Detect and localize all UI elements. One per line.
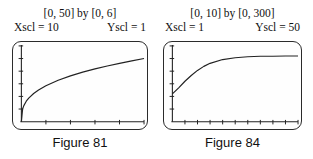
function-curve (172, 56, 298, 94)
page-container: [0, 50] by [0, 6] Xscl = 10 Yscl = 1 Fig… (0, 0, 313, 159)
figure-caption: Figure 81 (12, 135, 148, 150)
yscl-label: Yscl = 1 (107, 21, 146, 34)
window-range-label: [0, 10] by [0, 300] (163, 7, 302, 20)
figure-panel-81: [0, 50] by [0, 6] Xscl = 10 Yscl = 1 Fig… (12, 0, 148, 150)
graph-plot (13, 42, 147, 129)
yscl-label: Yscl = 50 (255, 21, 300, 34)
scale-labels-row: Xscl = 10 Yscl = 1 (12, 21, 148, 34)
xscl-label: Xscl = 10 (14, 21, 59, 34)
window-range-label: [0, 50] by [0, 6] (12, 7, 148, 20)
graph-plot (164, 42, 301, 129)
calculator-screen (163, 41, 302, 130)
figure-panel-84: [0, 10] by [0, 300] Xscl = 1 Yscl = 50 F… (163, 0, 302, 150)
scale-labels-row: Xscl = 1 Yscl = 50 (163, 21, 302, 34)
xscl-label: Xscl = 1 (165, 21, 204, 34)
calculator-screen (12, 41, 148, 130)
function-curve (21, 59, 144, 122)
figure-caption: Figure 84 (163, 135, 302, 150)
